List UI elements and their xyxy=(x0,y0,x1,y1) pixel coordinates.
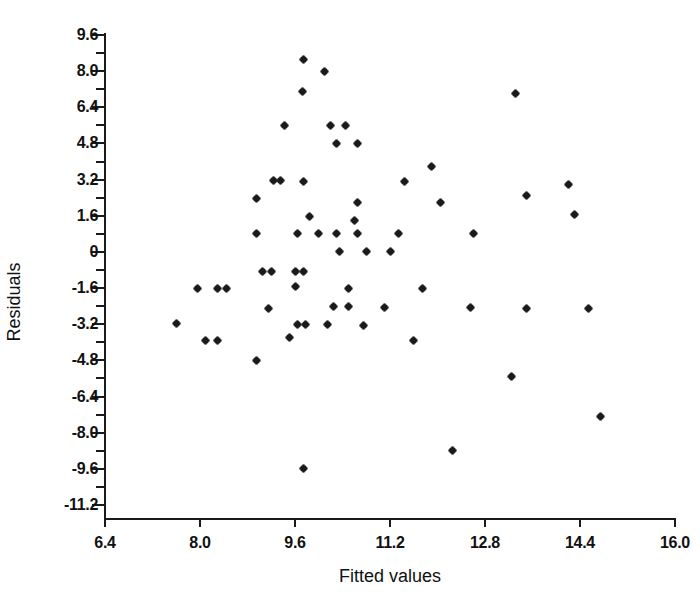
data-point xyxy=(522,304,531,313)
data-point xyxy=(280,121,289,130)
y-axis-tick-label: 3.2 xyxy=(77,171,98,189)
data-point xyxy=(511,89,520,98)
data-point xyxy=(201,336,210,345)
data-point xyxy=(298,87,307,96)
data-point xyxy=(400,177,409,186)
data-point xyxy=(332,139,341,148)
y-axis-tick-label: 4.8 xyxy=(77,134,98,152)
data-point xyxy=(353,229,362,238)
y-axis-tick-label: 1.6 xyxy=(77,207,98,225)
y-axis-tick-label: -11.2 xyxy=(64,496,98,514)
data-point xyxy=(323,320,332,329)
y-axis-tick-label: 0 xyxy=(89,243,98,261)
data-point xyxy=(326,121,335,130)
data-point xyxy=(418,284,427,293)
data-point xyxy=(285,333,294,342)
y-axis-tick-label: 6.4 xyxy=(77,98,98,116)
data-point xyxy=(353,139,362,148)
y-axis-tick-label: -6.4 xyxy=(72,388,98,406)
x-axis-tick-label: 12.8 xyxy=(470,534,500,552)
data-point xyxy=(252,356,261,365)
x-axis-tick-label: 9.6 xyxy=(284,534,305,552)
data-point xyxy=(264,304,273,313)
x-axis-tick xyxy=(579,518,581,527)
data-point xyxy=(380,303,389,312)
y-axis-tick-label: -9.6 xyxy=(72,460,98,478)
data-point xyxy=(314,229,323,238)
y-axis-title: Residuals xyxy=(4,262,25,341)
x-axis-tick xyxy=(484,518,486,527)
x-axis-tick xyxy=(674,518,676,527)
data-point xyxy=(344,284,353,293)
data-point xyxy=(299,177,308,186)
data-point xyxy=(329,302,338,311)
data-point xyxy=(276,176,285,185)
data-point xyxy=(353,198,362,207)
data-point xyxy=(362,247,371,256)
data-point xyxy=(252,229,261,238)
data-point xyxy=(172,319,181,328)
data-point xyxy=(359,321,368,330)
data-point xyxy=(427,162,436,171)
x-axis-title: Fitted values xyxy=(339,566,441,587)
x-axis-tick xyxy=(104,518,106,527)
data-point xyxy=(258,267,267,276)
y-axis-tick-label: 8.0 xyxy=(77,62,98,80)
data-point xyxy=(193,284,202,293)
data-point xyxy=(299,55,308,64)
x-axis-tick-label: 6.4 xyxy=(94,534,115,552)
data-point xyxy=(386,247,395,256)
data-point xyxy=(448,446,457,455)
data-point xyxy=(466,303,475,312)
data-point xyxy=(301,320,310,329)
data-point xyxy=(213,336,222,345)
x-axis-tick-label: 14.4 xyxy=(565,534,595,552)
data-point xyxy=(522,191,531,200)
data-point xyxy=(222,284,231,293)
data-point xyxy=(596,412,605,421)
data-point xyxy=(291,282,300,291)
data-point xyxy=(267,267,276,276)
plot-area xyxy=(105,35,675,518)
data-point xyxy=(293,229,302,238)
x-axis-tick xyxy=(294,518,296,527)
data-point xyxy=(320,67,329,76)
data-point xyxy=(299,464,308,473)
x-axis-tick xyxy=(199,518,201,527)
x-axis-tick xyxy=(389,518,391,527)
data-point xyxy=(291,267,300,276)
data-point xyxy=(394,229,403,238)
data-point xyxy=(507,372,516,381)
data-point xyxy=(299,267,308,276)
data-point xyxy=(436,198,445,207)
data-point xyxy=(409,336,418,345)
data-point xyxy=(584,304,593,313)
data-point xyxy=(570,210,579,219)
data-point xyxy=(564,180,573,189)
x-axis-tick-label: 8.0 xyxy=(189,534,210,552)
scatter-plot-figure: 9.68.06.44.83.21.60-1.6-3.2-4.8-6.4-8.0-… xyxy=(0,0,700,605)
x-axis-tick-label: 11.2 xyxy=(375,534,404,552)
data-point xyxy=(350,216,359,225)
y-axis-tick-label: 9.6 xyxy=(77,26,98,44)
data-point xyxy=(213,284,222,293)
data-point xyxy=(344,302,353,311)
y-axis-tick-label: -3.2 xyxy=(72,315,98,333)
data-point xyxy=(252,194,261,203)
data-point xyxy=(332,229,341,238)
data-point xyxy=(341,121,350,130)
x-axis-tick-label: 16.0 xyxy=(660,534,690,552)
data-point xyxy=(305,212,314,221)
y-axis-tick-label: -4.8 xyxy=(72,351,98,369)
data-point xyxy=(469,229,478,238)
y-axis-tick-label: -8.0 xyxy=(72,424,98,442)
data-point xyxy=(335,247,344,256)
y-axis-tick-label: -1.6 xyxy=(72,279,98,297)
